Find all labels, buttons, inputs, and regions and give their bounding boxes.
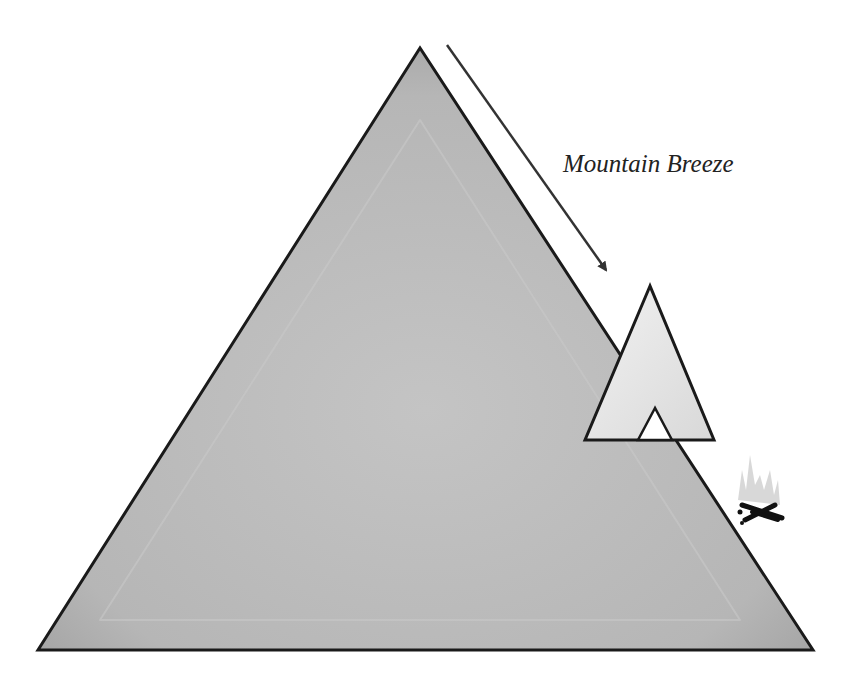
mountain-breeze-label: Mountain Breeze bbox=[563, 150, 734, 178]
mountain bbox=[38, 48, 813, 650]
diagram-canvas bbox=[0, 0, 841, 683]
campfire-icon bbox=[738, 455, 783, 525]
